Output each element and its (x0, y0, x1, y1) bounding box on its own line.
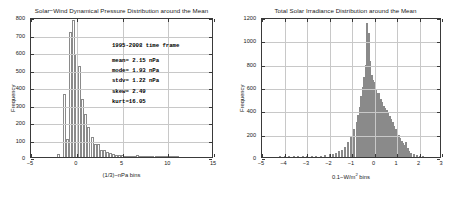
y-tick-label: 800 (227, 62, 256, 68)
y-tick (209, 124, 212, 125)
y-tick (31, 107, 34, 108)
gridline-horizontal (31, 37, 212, 38)
gridline-horizontal (31, 124, 212, 125)
histogram-bar (320, 156, 322, 157)
y-tick (262, 89, 265, 90)
histogram-bar (413, 154, 415, 157)
y-tick-label: 100 (0, 138, 25, 144)
x-tick (442, 154, 443, 157)
y-tick-label: 200 (227, 132, 256, 138)
y-tick (31, 89, 34, 90)
x-tick (168, 19, 169, 22)
histogram-bar (297, 156, 299, 157)
y-tick (31, 19, 34, 20)
y-tick (31, 54, 34, 55)
histogram-bar (57, 154, 60, 157)
x-tick (123, 154, 124, 157)
histogram-bar (422, 156, 424, 157)
x-tick-label: 0 (372, 160, 375, 166)
plot-area (261, 18, 441, 158)
y-tick-label: 600 (0, 50, 25, 56)
x-tick (375, 154, 376, 157)
y-tick (209, 89, 212, 90)
histogram-bar (347, 142, 349, 157)
x-tick-label: 0 (74, 160, 77, 166)
histogram-bar (332, 154, 334, 158)
stat-mode: mode= 1.93 nPa (112, 67, 179, 74)
y-tick (262, 19, 265, 20)
y-tick (209, 107, 212, 108)
y-tick (437, 66, 440, 67)
panel-title: Total Solar Irradiance Distribution arou… (227, 7, 454, 14)
annotation-stats: mean= 2.15 nPa mode= 1.93 nPa stdv= 1.22… (112, 57, 179, 106)
histogram-bar (288, 156, 290, 157)
panel-solar-wind-pressure: Solar−Wind Dynamical Pressure Distributi… (0, 0, 227, 199)
x-tick (375, 19, 376, 22)
gridline-horizontal (262, 42, 440, 43)
histogram-bar (410, 153, 412, 157)
panel-total-solar-irradiance: Total Solar Irradiance Distribution arou… (227, 0, 454, 199)
x-tick-label: −5 (258, 160, 264, 166)
y-tick (262, 42, 265, 43)
x-tick (307, 154, 308, 157)
y-tick-label: 1000 (227, 38, 256, 44)
stat-skew: skew= 2.49 (112, 88, 179, 95)
x-tick-label: −4 (280, 160, 286, 166)
y-tick (31, 124, 34, 125)
x-tick (262, 154, 263, 157)
x-tick (307, 19, 308, 22)
y-tick-label: 800 (0, 15, 25, 21)
x-tick (420, 154, 421, 157)
gridline-vertical (77, 19, 78, 157)
y-tick (31, 72, 34, 73)
y-tick (209, 19, 212, 20)
y-tick (262, 136, 265, 137)
x-tick (168, 154, 169, 157)
histogram-bar (341, 150, 343, 157)
y-tick-label: 700 (0, 33, 25, 39)
histogram-bar (335, 153, 337, 157)
y-tick (437, 19, 440, 20)
x-tick (285, 154, 286, 157)
gridline-horizontal (262, 89, 440, 90)
y-tick-label: 0 (0, 155, 25, 161)
histogram-bar (176, 156, 179, 157)
y-axis-title: Frequency (10, 85, 16, 112)
x-tick (352, 19, 353, 22)
histogram-bar (315, 156, 317, 157)
y-tick (437, 89, 440, 90)
x-tick-label: −1 (348, 160, 354, 166)
x-tick-label: −5 (27, 160, 33, 166)
histogram-bar (353, 129, 355, 157)
x-tick (214, 19, 215, 22)
histogram-bar (302, 156, 304, 157)
y-tick-label: 200 (0, 120, 25, 126)
stat-stdv: stdv= 1.22 nPa (112, 77, 179, 84)
x-tick-label: −2 (325, 160, 331, 166)
y-tick (209, 142, 212, 143)
stat-mean: mean= 2.15 nPa (112, 57, 179, 64)
annotation-block: 1995-2008 time frame mean= 2.15 nPa mode… (112, 42, 179, 109)
gridline-horizontal (31, 142, 212, 143)
y-tick (262, 112, 265, 113)
gridline-horizontal (262, 66, 440, 67)
x-tick (77, 154, 78, 157)
x-tick (285, 19, 286, 22)
histogram-bar (311, 156, 313, 157)
y-tick (209, 37, 212, 38)
x-tick-label: 5 (120, 160, 123, 166)
x-axis-title: 0.1−W/m2 bins (261, 172, 441, 180)
y-tick (31, 37, 34, 38)
x-tick-label: 2 (417, 160, 420, 166)
x-tick (123, 19, 124, 22)
histogram-bar (416, 155, 418, 157)
y-tick-label: 0 (227, 155, 256, 161)
histogram-bar (324, 155, 326, 157)
y-tick-label: 500 (0, 68, 25, 74)
gridline-horizontal (262, 112, 440, 113)
x-tick-label: 15 (210, 160, 216, 166)
x-tick (31, 154, 32, 157)
histogram-bar (293, 156, 295, 157)
y-axis-title: Frequency (239, 85, 245, 112)
panel-title: Solar−Wind Dynamical Pressure Distributi… (0, 7, 227, 14)
